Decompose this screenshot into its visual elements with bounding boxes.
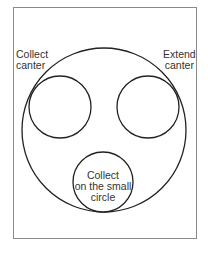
circles-diagram <box>0 0 208 254</box>
label-collect-small-circle: Collect on the small circle <box>73 170 133 203</box>
label-collect-canter: Collect canter <box>16 49 48 71</box>
label-extend-canter: Extend canter <box>163 49 196 71</box>
right-small-circle <box>117 76 179 138</box>
left-small-circle <box>29 76 91 138</box>
